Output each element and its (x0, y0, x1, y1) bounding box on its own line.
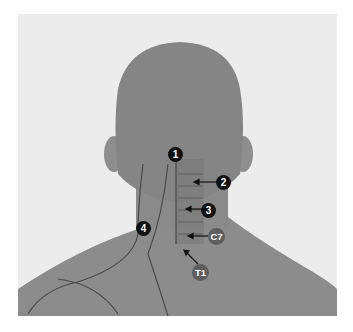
marker-4: 4 (136, 221, 151, 236)
illustration-frame: 1 2 3 4 C7 T1 (18, 14, 337, 316)
marker-c7: C7 (208, 228, 225, 245)
marker-3: 3 (201, 203, 216, 218)
marker-2: 2 (216, 175, 231, 190)
marker-1: 1 (168, 147, 183, 162)
marker-t1: T1 (192, 264, 209, 281)
head-neck-illustration (18, 14, 337, 316)
